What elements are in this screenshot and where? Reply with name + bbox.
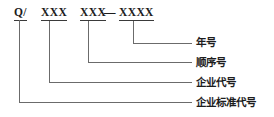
standard-number-diagram: Q/ XXX XXX — XXXX 年号 顺序号 企业代号 企业标准代号 [0,0,274,117]
leader-line-year [134,21,193,44]
label-sequence-number: 顺序号 [196,56,226,68]
leader-line-sequence [89,21,193,63]
label-year: 年号 [196,36,216,48]
label-enterprise-standard-code: 企业标准代号 [196,96,256,108]
label-enterprise-code: 企业代号 [196,76,236,88]
leader-line-enterprise-code [50,21,193,83]
leader-line-enterprise-standard [20,20,193,103]
